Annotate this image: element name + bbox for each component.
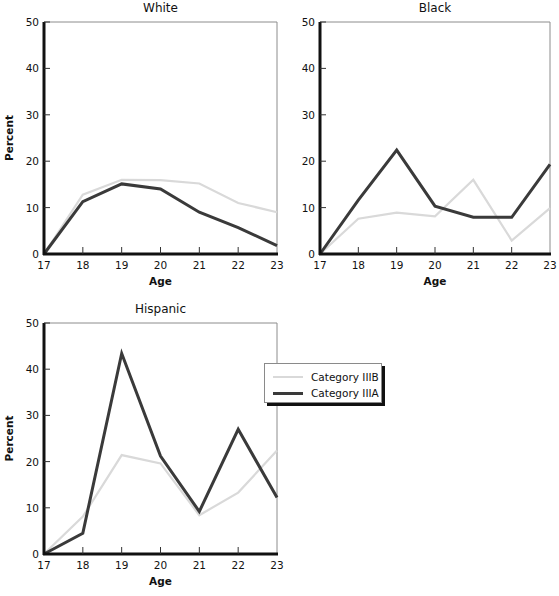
- series-line-category-iiia: [44, 354, 277, 555]
- chart-hispanic: Hispanic0102030405017181920212223AgePerc…: [3, 302, 284, 587]
- x-tick-label: 22: [231, 559, 244, 571]
- x-axis-label: Age: [149, 575, 172, 587]
- y-tick-label: 20: [26, 155, 39, 167]
- x-tick-label: 17: [37, 559, 50, 571]
- chart-title: White: [143, 1, 178, 15]
- x-tick-label: 20: [154, 559, 167, 571]
- y-tick-label: 10: [302, 202, 315, 214]
- chart-black: Black0102030405017181920212223Age: [302, 1, 557, 287]
- y-tick-label: 20: [26, 456, 39, 468]
- y-tick-label: 20: [302, 155, 315, 167]
- chart-white: White0102030405017181920212223AgePercent: [3, 1, 284, 287]
- y-tick-label: 10: [26, 202, 39, 214]
- legend-label: Category IIIB: [311, 371, 379, 383]
- series-line-category-iiib: [44, 451, 277, 555]
- x-tick-label: 21: [193, 559, 206, 571]
- legend-swatch-dark-line-icon: [273, 392, 303, 395]
- x-tick-label: 17: [37, 259, 50, 271]
- series-line-category-iiib: [44, 180, 277, 254]
- x-tick-label: 18: [76, 559, 89, 571]
- charts-canvas: White0102030405017181920212223AgePercent…: [0, 0, 559, 596]
- legend-item-category-iiib: Category IIIB: [273, 369, 379, 385]
- legend-label: Category IIIA: [311, 387, 379, 399]
- series-line-category-iiia: [44, 184, 277, 254]
- legend-swatch-light-line-icon: [273, 376, 303, 378]
- y-tick-label: 10: [26, 502, 39, 514]
- legend: Category IIIB Category IIIA: [264, 363, 382, 403]
- x-tick-label: 21: [467, 259, 480, 271]
- series-line-category-iiib: [320, 180, 550, 254]
- x-tick-label: 22: [505, 259, 518, 271]
- y-tick-label: 40: [302, 62, 315, 74]
- figure: White0102030405017181920212223AgePercent…: [0, 0, 559, 596]
- y-axis-label: Percent: [3, 115, 15, 161]
- x-tick-label: 19: [390, 259, 403, 271]
- x-tick-label: 23: [543, 259, 556, 271]
- x-tick-label: 20: [154, 259, 167, 271]
- x-tick-label: 19: [115, 559, 128, 571]
- x-tick-label: 18: [352, 259, 365, 271]
- x-axis-label: Age: [149, 275, 172, 287]
- chart-title: Hispanic: [135, 302, 186, 316]
- x-tick-label: 23: [270, 559, 283, 571]
- y-tick-label: 30: [26, 109, 39, 121]
- y-tick-label: 30: [26, 409, 39, 421]
- y-tick-label: 40: [26, 62, 39, 74]
- x-tick-label: 22: [231, 259, 244, 271]
- x-tick-label: 23: [270, 259, 283, 271]
- y-tick-label: 40: [26, 363, 39, 375]
- y-axis-label: Percent: [3, 416, 15, 462]
- x-tick-label: 18: [76, 259, 89, 271]
- y-tick-label: 50: [302, 16, 315, 28]
- x-tick-label: 17: [313, 259, 326, 271]
- y-tick-label: 50: [26, 16, 39, 28]
- x-tick-label: 21: [193, 259, 206, 271]
- y-tick-label: 30: [302, 109, 315, 121]
- x-tick-label: 19: [115, 259, 128, 271]
- x-axis-label: Age: [424, 275, 447, 287]
- y-tick-label: 50: [26, 317, 39, 329]
- x-tick-label: 20: [428, 259, 441, 271]
- chart-title: Black: [419, 1, 452, 15]
- legend-item-category-iiia: Category IIIA: [273, 385, 379, 401]
